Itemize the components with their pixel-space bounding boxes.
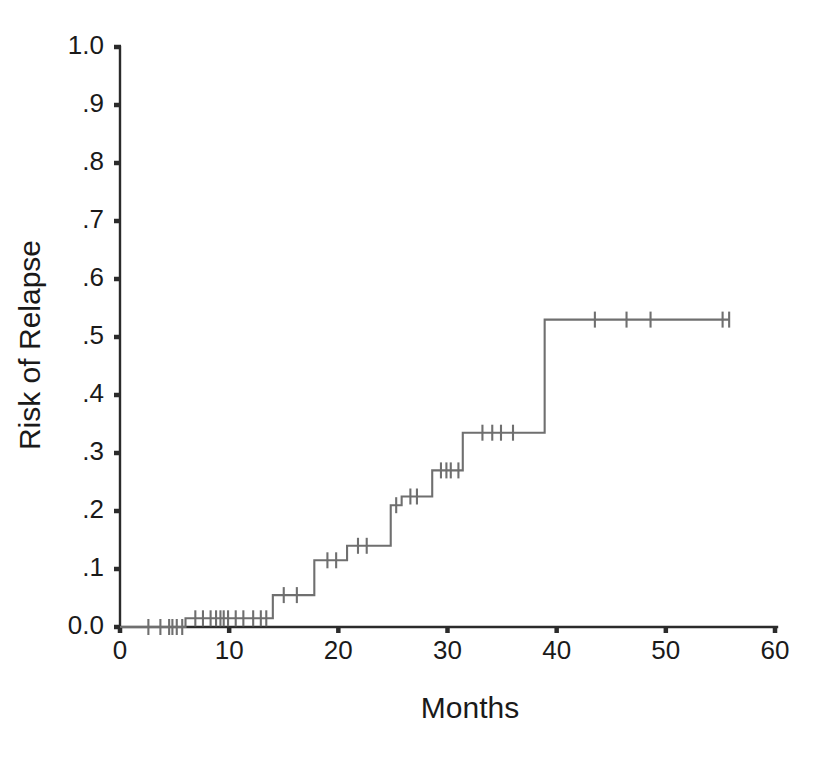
- y-tick-label: .1: [82, 552, 104, 582]
- x-tick-label: 60: [761, 635, 790, 665]
- x-tick-label: 40: [542, 635, 571, 665]
- y-tick-label: .7: [82, 204, 104, 234]
- risk-of-relapse-chart: 0.0.1.2.3.4.5.6.7.8.91.0 0102030405060 M…: [0, 0, 820, 761]
- y-tick-label: .6: [82, 262, 104, 292]
- y-tick-label: .3: [82, 436, 104, 466]
- y-tick-label: 0.0: [68, 610, 104, 640]
- y-tick-label: .8: [82, 146, 104, 176]
- x-tick-label: 0: [113, 635, 127, 665]
- y-tick-label: .2: [82, 494, 104, 524]
- x-axis-title: Months: [421, 691, 519, 724]
- figure-container: 0.0.1.2.3.4.5.6.7.8.91.0 0102030405060 M…: [0, 0, 820, 761]
- x-tick-label: 30: [433, 635, 462, 665]
- y-tick-label: 1.0: [68, 30, 104, 60]
- x-tick-label: 10: [215, 635, 244, 665]
- y-tick-label: .4: [82, 378, 104, 408]
- y-axis-title: Risk of Relapse: [13, 240, 46, 450]
- y-tick-label: .5: [82, 320, 104, 350]
- x-tick-label: 20: [324, 635, 353, 665]
- x-tick-label: 50: [651, 635, 680, 665]
- y-tick-label: .9: [82, 88, 104, 118]
